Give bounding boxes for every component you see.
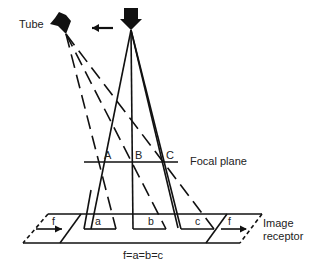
image-a-label: a <box>95 216 101 227</box>
point-a-label: A <box>104 150 111 161</box>
image-b-label: b <box>148 216 154 227</box>
x-ray-tube-tilted-icon <box>50 12 71 34</box>
f-right-label: f <box>228 216 231 227</box>
right-tube-rays <box>91 30 181 229</box>
image-receptor-label-2: receptor <box>263 231 303 242</box>
f-left-label: f <box>52 216 55 227</box>
image-c-label: c <box>195 216 200 227</box>
point-c-label: C <box>166 150 174 161</box>
focal-plane-label: Focal plane <box>190 156 247 167</box>
tube-label: Tube <box>19 19 44 30</box>
point-b-label: B <box>135 150 142 161</box>
x-ray-tube-icon <box>120 8 142 30</box>
image-receptor-label-1: Image <box>263 218 294 229</box>
equation-label: f=a=b=c <box>123 250 163 261</box>
